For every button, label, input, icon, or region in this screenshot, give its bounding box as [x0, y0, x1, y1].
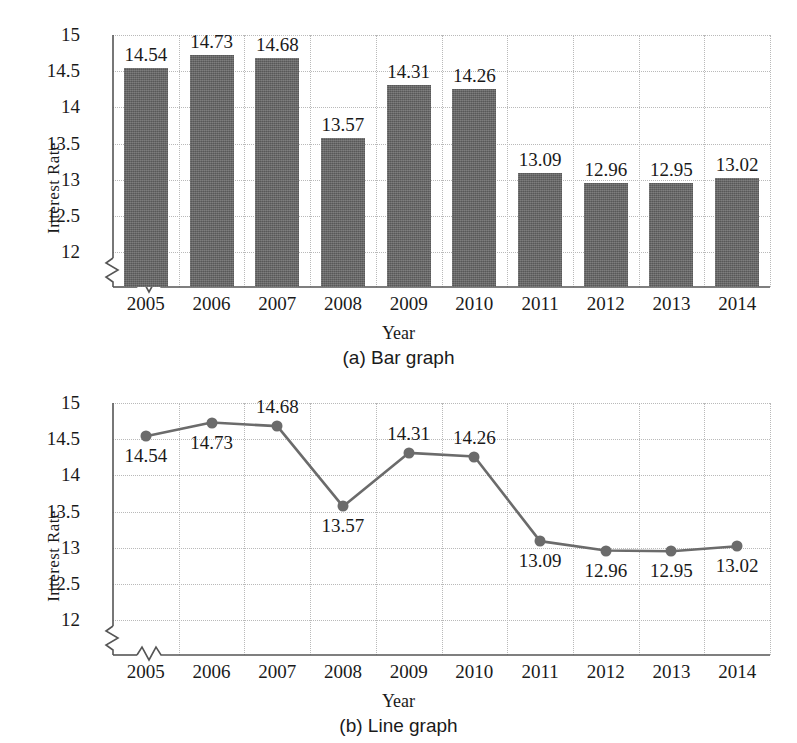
point-value-label: 12.95: [650, 560, 693, 582]
bar-value-label: 14.54: [124, 44, 167, 66]
x-tick-label: 2011: [521, 661, 558, 683]
point-value-label: 13.57: [322, 515, 365, 537]
data-point-marker: [206, 417, 217, 428]
x-tick-label: 2005: [127, 661, 165, 683]
x-tick-label: 2010: [455, 661, 493, 683]
x-tick-label: 2013: [652, 293, 690, 315]
x-tick-label: 2005: [127, 293, 165, 315]
bar-value-label: 13.09: [519, 149, 562, 171]
bar: [452, 89, 496, 287]
bar: [387, 85, 431, 287]
bar-value-label: 13.57: [322, 114, 365, 136]
data-point-marker: [469, 451, 480, 462]
x-tick-label: 2006: [193, 661, 231, 683]
x-tick-label: 2008: [324, 661, 362, 683]
x-tick-label: 2010: [455, 293, 493, 315]
x-axis-label-a: Year: [0, 323, 797, 344]
bar-value-label: 14.26: [453, 65, 496, 87]
x-tick-label: 2011: [521, 293, 558, 315]
bar-value-label: 14.73: [190, 31, 233, 53]
data-point-marker: [337, 501, 348, 512]
x-tick-label: 2009: [390, 293, 428, 315]
bar-value-label: 14.31: [387, 61, 430, 83]
figure-panel-bar: Interest Rate 1212.51313.51414.515 Year …: [0, 0, 797, 375]
point-value-label: 14.68: [256, 396, 299, 418]
bar: [649, 183, 693, 287]
bar-value-label: 12.96: [584, 159, 627, 181]
bar: [715, 178, 759, 287]
data-point-marker: [272, 421, 283, 432]
point-value-label: 13.09: [519, 550, 562, 572]
data-point-marker: [535, 536, 546, 547]
x-tick-label: 2012: [587, 661, 625, 683]
figure-caption-b: (b) Line graph: [0, 715, 797, 737]
x-tick-label: 2009: [390, 661, 428, 683]
bar: [190, 55, 234, 287]
bar: [321, 138, 365, 287]
data-point-marker: [732, 541, 743, 552]
data-point-marker: [403, 447, 414, 458]
bar: [255, 58, 299, 287]
bar-value-label: 13.02: [716, 154, 759, 176]
x-tick-label: 2007: [258, 293, 296, 315]
point-value-label: 13.02: [716, 555, 759, 577]
bar: [584, 183, 628, 287]
point-value-label: 14.73: [190, 432, 233, 454]
figure-panel-line: Interest Rate 1212.51313.51414.515 Year …: [0, 368, 797, 743]
point-value-label: 14.26: [453, 427, 496, 449]
figure-caption-a: (a) Bar graph: [0, 347, 797, 369]
data-point-marker: [600, 545, 611, 556]
x-axis-label-b: Year: [0, 691, 797, 712]
x-tick-label: 2012: [587, 293, 625, 315]
bar-value-label: 14.68: [256, 34, 299, 56]
x-tick-label: 2014: [718, 661, 756, 683]
x-tick-label: 2014: [718, 293, 756, 315]
data-point-marker: [666, 546, 677, 557]
x-tick-label: 2007: [258, 661, 296, 683]
x-tick-label: 2013: [652, 661, 690, 683]
point-value-label: 14.54: [124, 445, 167, 467]
point-value-label: 12.96: [584, 560, 627, 582]
bar-value-label: 12.95: [650, 159, 693, 181]
x-tick-label: 2006: [193, 293, 231, 315]
x-tick-label: 2008: [324, 293, 362, 315]
bar: [518, 173, 562, 287]
bar: [124, 68, 168, 287]
point-value-label: 14.31: [387, 423, 430, 445]
data-point-marker: [140, 431, 151, 442]
